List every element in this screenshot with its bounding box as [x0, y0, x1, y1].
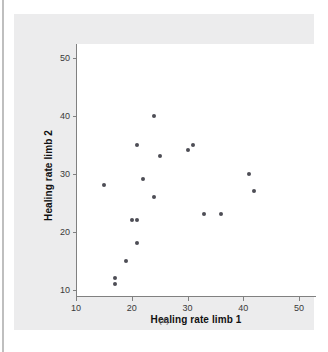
data-point — [186, 148, 190, 152]
y-tick-label: 10 — [52, 285, 70, 295]
y-tick-label: 30 — [52, 169, 70, 179]
figure-caption: (a) — [14, 316, 314, 325]
scatter-plot-figure: 1020304050 1020304050 Healing rate limb … — [0, 0, 328, 352]
axes-lines — [14, 14, 328, 352]
y-tick-label: 50 — [52, 53, 70, 63]
data-point — [135, 143, 139, 147]
data-point — [102, 183, 106, 187]
data-point — [152, 114, 156, 118]
y-tick-label: 40 — [52, 111, 70, 121]
figure-panel: 1020304050 1020304050 Healing rate limb … — [14, 14, 314, 330]
data-point — [219, 212, 223, 216]
x-tick-label: 10 — [71, 303, 81, 313]
x-tick-label: 30 — [182, 303, 192, 313]
data-point — [152, 195, 156, 199]
y-tick-label: 20 — [52, 227, 70, 237]
x-tick-label: 50 — [294, 303, 304, 313]
data-point — [124, 259, 128, 263]
page-edge-rule — [2, 0, 4, 352]
data-point — [191, 143, 195, 147]
y-axis-title: Healing rate limb 2 — [43, 96, 54, 256]
x-tick-label: 20 — [127, 303, 137, 313]
data-point — [158, 154, 162, 158]
data-point — [130, 218, 134, 222]
data-point — [247, 172, 251, 176]
x-tick-label: 40 — [238, 303, 248, 313]
data-point — [113, 276, 117, 280]
data-point — [113, 282, 117, 286]
